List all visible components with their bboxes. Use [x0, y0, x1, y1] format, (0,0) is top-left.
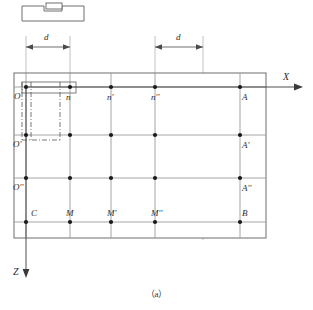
workpiece-tool-profile-icon [22, 3, 84, 21]
node-M [68, 220, 72, 224]
node-M-prime [109, 220, 113, 224]
point-label-C: C [31, 209, 37, 218]
workpiece-outline [14, 73, 266, 238]
node-r2c4 [153, 133, 157, 137]
node-O [24, 85, 28, 89]
point-label-O-dprime: O'' [13, 183, 23, 192]
point-label-M-dprime: M'' [151, 209, 162, 218]
node-O-prime [24, 133, 28, 137]
node-r3c3 [109, 176, 113, 180]
node-r2c2 [68, 133, 72, 137]
node-r2c3 [109, 133, 113, 137]
dimension-line-d-left [26, 44, 70, 50]
dimension-label-d-right: d [176, 33, 181, 42]
node-O-dprime [24, 176, 28, 180]
node-M-dprime [153, 220, 157, 224]
figure-caption: （a） [0, 287, 313, 300]
point-label-A-dprime: A'' [242, 184, 251, 193]
node-r3c4 [153, 176, 157, 180]
node-n-dprime [153, 85, 157, 89]
point-label-A: A [242, 93, 248, 102]
node-C [24, 220, 28, 224]
point-label-n-prime: n' [107, 93, 113, 102]
node-A [238, 85, 242, 89]
point-label-n: n [66, 93, 71, 102]
point-label-n-dprime: n'' [151, 93, 159, 102]
x-axis-label: X [283, 72, 289, 82]
z-axis-label: Z [13, 267, 19, 277]
node-n [68, 85, 72, 89]
point-label-B: B [242, 209, 248, 218]
node-A-dprime [238, 176, 242, 180]
point-label-O-prime: O' [13, 140, 21, 149]
point-label-M: M [66, 209, 74, 218]
node-n-prime [109, 85, 113, 89]
point-label-A-prime: A' [242, 141, 249, 150]
point-label-M-prime: M' [107, 209, 116, 218]
node-B [238, 220, 242, 224]
dimension-label-d-left: d [44, 33, 49, 42]
dimension-line-d-right [155, 44, 203, 50]
point-label-O: O [14, 92, 21, 101]
figure-canvas [0, 0, 313, 310]
node-A-prime [238, 133, 242, 137]
node-r3c2 [68, 176, 72, 180]
